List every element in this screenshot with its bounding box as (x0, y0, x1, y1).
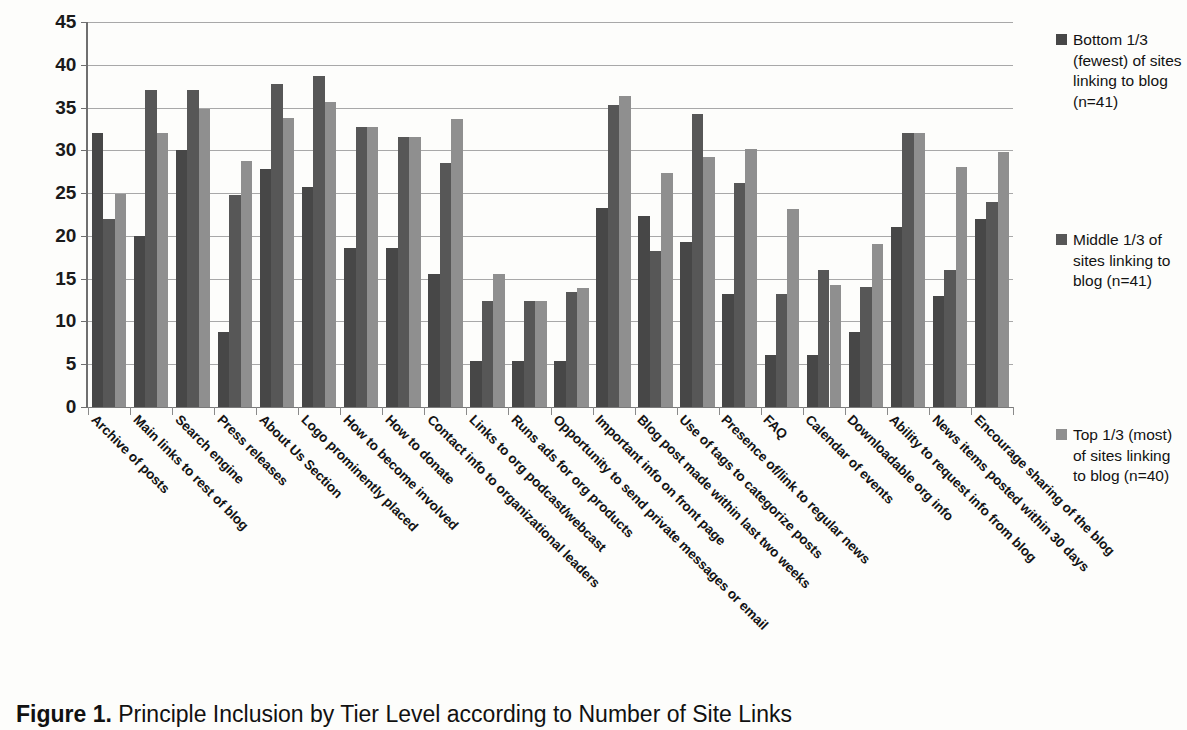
bar (344, 248, 355, 407)
bar (157, 133, 168, 407)
bar (608, 105, 619, 407)
bar (680, 242, 691, 407)
bar (241, 161, 252, 407)
legend-swatch-icon (1056, 429, 1067, 440)
bar (92, 133, 103, 407)
bar (577, 288, 588, 407)
bar-group (722, 22, 756, 407)
bar (218, 332, 229, 407)
bar (470, 361, 481, 407)
x-axis-category-label: Archive of posts (88, 412, 172, 496)
y-axis-tickmark (81, 193, 88, 194)
y-tick-label: 15 (55, 268, 76, 290)
bar (986, 202, 997, 407)
chart-plot-wrapper: 051015202530354045 Archive of postsMain … (0, 0, 1187, 660)
bar-group (596, 22, 630, 407)
bar-group (975, 22, 1009, 407)
bar (440, 163, 451, 407)
bar-group (512, 22, 546, 407)
bar (260, 169, 271, 407)
bar (313, 76, 324, 407)
bar (524, 301, 535, 407)
bar (860, 287, 871, 407)
bar (229, 195, 240, 407)
bar (409, 137, 420, 407)
plot-area (86, 22, 1013, 407)
y-axis-tickmark (81, 364, 88, 365)
bar-group (470, 22, 504, 407)
legend-item-bottom-third[interactable]: Bottom 1/3 (fewest) of sites linking to … (1056, 30, 1184, 112)
y-axis-tickmark (81, 108, 88, 109)
y-tick-label: 45 (55, 11, 76, 33)
bar (145, 90, 156, 407)
y-axis-tickmark (81, 65, 88, 66)
y-tick-label: 40 (55, 54, 76, 76)
bar (554, 361, 565, 407)
bar (998, 152, 1009, 407)
bars-layer (88, 22, 1013, 407)
legend-swatch-icon (1056, 234, 1067, 245)
y-tick-label: 35 (55, 97, 76, 119)
legend-label: Top 1/3 (most) of sites linking to blog … (1073, 425, 1184, 487)
bar (451, 119, 462, 407)
bar (956, 167, 967, 407)
bar (830, 285, 841, 407)
bar (271, 84, 282, 407)
legend-label: Bottom 1/3 (fewest) of sites linking to … (1073, 30, 1184, 112)
x-axis-category-label: FAQ (761, 412, 791, 442)
bar-group (849, 22, 883, 407)
bar (482, 301, 493, 407)
bar (818, 270, 829, 407)
y-tick-label: 25 (55, 182, 76, 204)
figure-caption-label: Figure 1. (16, 701, 112, 727)
legend-item-top-third[interactable]: Top 1/3 (most) of sites linking to blog … (1056, 425, 1184, 487)
x-axis-category-label: Presence of/link to regular news (719, 412, 874, 567)
y-axis-tickmark (81, 321, 88, 322)
bar (283, 118, 294, 407)
bar (325, 102, 336, 407)
bar (849, 332, 860, 407)
y-axis: 051015202530354045 (28, 0, 76, 420)
bar-group (134, 22, 168, 407)
bar-group (680, 22, 714, 407)
bar (734, 183, 745, 407)
bar-group (807, 22, 841, 407)
bar (566, 292, 577, 407)
bar (944, 270, 955, 407)
bar (765, 355, 776, 407)
bar (776, 294, 787, 407)
bar (891, 227, 902, 407)
y-axis-tickmark (81, 407, 88, 408)
bar-group (386, 22, 420, 407)
bar (902, 133, 913, 407)
bar (975, 219, 986, 407)
bar (745, 149, 756, 407)
figure-container: 051015202530354045 Archive of postsMain … (0, 0, 1187, 730)
legend-swatch-icon (1056, 34, 1067, 45)
bar (356, 127, 367, 407)
y-tick-label: 30 (55, 139, 76, 161)
bar (199, 109, 210, 407)
bar (650, 251, 661, 407)
bar-group (92, 22, 126, 407)
bar-group (218, 22, 252, 407)
bar-group (176, 22, 210, 407)
bar (722, 294, 733, 407)
bar (661, 173, 672, 407)
bar-group (428, 22, 462, 407)
bar-group (344, 22, 378, 407)
bar-group (933, 22, 967, 407)
bar-group (765, 22, 799, 407)
bar (638, 216, 649, 407)
legend-item-middle-third[interactable]: Middle 1/3 of sites linking to blog (n=4… (1056, 230, 1184, 292)
bar-group (891, 22, 925, 407)
y-tick-label: 10 (55, 310, 76, 332)
bar (386, 248, 397, 407)
y-tick-label: 0 (66, 396, 76, 418)
x-axis-category-labels: Archive of postsMain links to rest of bl… (86, 412, 1011, 662)
y-axis-tickmark (81, 236, 88, 237)
x-axis-tickmark (1013, 407, 1014, 415)
bar (596, 208, 607, 407)
bar-group (554, 22, 588, 407)
y-tick-label: 5 (66, 353, 76, 375)
